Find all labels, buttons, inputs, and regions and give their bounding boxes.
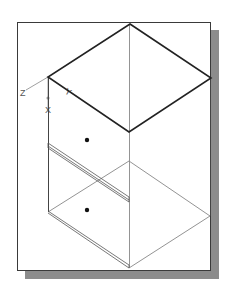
bottom-face [48,161,210,268]
ucs-icon: Z Y X [20,77,73,115]
hole-lower [85,208,89,212]
bottom-front-edge [48,211,129,268]
isometric-drawing: Z Y X [0,0,235,294]
hole-upper [85,138,89,142]
groove [48,143,129,202]
z-axis-label: Z [20,88,26,98]
